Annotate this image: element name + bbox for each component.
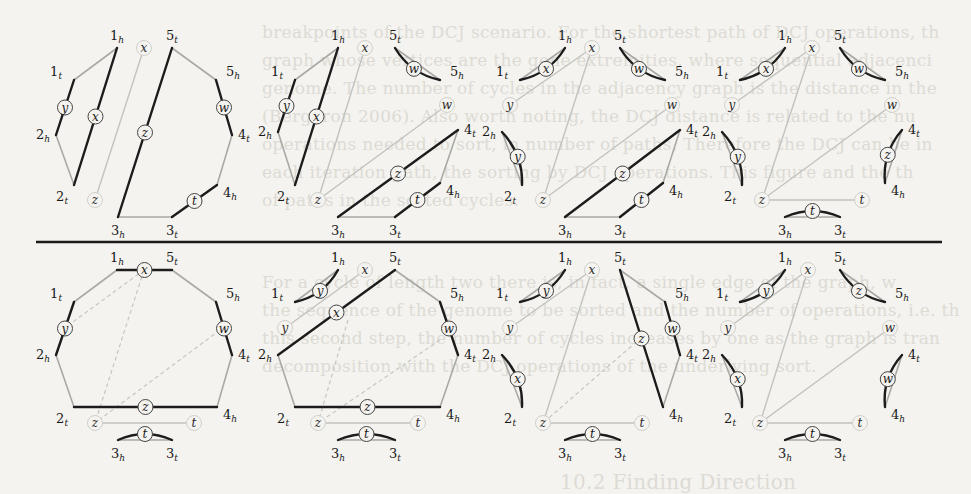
vertex-label-5h: 5h bbox=[450, 286, 464, 303]
aux-node-w: w bbox=[440, 98, 455, 113]
panel-top-1: yxzwtxz1t1h5t5h4t4h3t3h2t2h bbox=[36, 28, 250, 240]
vertex-label-4h: 4h bbox=[446, 183, 460, 200]
svg-text:w: w bbox=[219, 322, 230, 336]
edge-label-x: x bbox=[137, 263, 152, 278]
svg-text:z: z bbox=[141, 126, 149, 140]
svg-text:x: x bbox=[362, 41, 369, 55]
edge-label-y: y bbox=[313, 283, 328, 298]
vertex-label-3t: 3t bbox=[614, 446, 626, 463]
vertex-label-4t: 4t bbox=[686, 347, 698, 364]
vertex-label-1h: 1h bbox=[331, 250, 345, 267]
aux-node-y: y bbox=[725, 98, 740, 113]
vertex-label-2t: 2t bbox=[277, 189, 289, 206]
vertex-label-1h: 1h bbox=[778, 28, 792, 45]
svg-text:z: z bbox=[539, 193, 547, 207]
adjacency-edge-1t-1h bbox=[295, 48, 338, 80]
vertex-label-5h: 5h bbox=[226, 286, 240, 303]
vertex-label-2t: 2t bbox=[504, 189, 516, 206]
vertex-label-1t: 1t bbox=[50, 64, 62, 81]
dashed-edge bbox=[318, 340, 440, 423]
svg-text:w: w bbox=[667, 322, 678, 336]
vertex-label-5t: 5t bbox=[166, 250, 178, 267]
vertex-label-3h: 3h bbox=[331, 446, 345, 463]
svg-text:x: x bbox=[313, 110, 320, 124]
aux-node-z: z bbox=[755, 193, 770, 208]
edge-label-z: z bbox=[851, 283, 866, 298]
edge-label-z: z bbox=[634, 331, 649, 346]
svg-text:y: y bbox=[61, 322, 69, 336]
aux-edge-w-z bbox=[760, 328, 890, 423]
vertex-label-4h: 4h bbox=[446, 407, 460, 424]
svg-text:z: z bbox=[539, 416, 547, 430]
svg-text:y: y bbox=[542, 284, 550, 298]
edge-label-t: t bbox=[585, 427, 600, 442]
adjacency-edge-2h-2t bbox=[56, 355, 74, 407]
vertex-label-3t: 3t bbox=[389, 223, 401, 240]
dashed-edge bbox=[95, 330, 220, 423]
edge-label-z: z bbox=[391, 166, 406, 181]
vertex-label-2h: 2h bbox=[482, 347, 496, 364]
vertex-label-1h: 1h bbox=[110, 250, 124, 267]
svg-text:t: t bbox=[640, 416, 645, 430]
vertex-label-4h: 4h bbox=[891, 183, 905, 200]
svg-text:w: w bbox=[885, 321, 896, 335]
aux-node-z: z bbox=[311, 416, 326, 431]
aux-node-y: y bbox=[503, 321, 518, 336]
vertex-label-1t: 1t bbox=[271, 286, 283, 303]
aux-edge-x-y bbox=[510, 48, 592, 105]
edge-label-t: t bbox=[137, 427, 152, 442]
aux-node-z: z bbox=[88, 193, 103, 208]
svg-text:y: y bbox=[513, 150, 521, 164]
adjacency-edge-4t-4h bbox=[217, 355, 232, 407]
svg-text:x: x bbox=[805, 263, 812, 277]
edge-label-t: t bbox=[187, 194, 202, 209]
aux-node-w: w bbox=[665, 98, 680, 113]
edge-label-z: z bbox=[360, 400, 375, 415]
vertex-label-1h: 1h bbox=[331, 28, 345, 45]
vertex-label-5h: 5h bbox=[675, 64, 689, 81]
svg-text:x: x bbox=[809, 41, 816, 55]
adjacency-edge-2h-2t bbox=[278, 132, 295, 185]
vertex-label-3t: 3t bbox=[389, 446, 401, 463]
vertex-label-2t: 2t bbox=[56, 189, 68, 206]
edge-label-t: t bbox=[359, 427, 374, 442]
vertex-label-4h: 4h bbox=[223, 407, 237, 424]
svg-text:y: y bbox=[733, 150, 741, 164]
svg-text:z: z bbox=[91, 416, 99, 430]
vertex-label-1h: 1h bbox=[778, 250, 792, 267]
panel-bottom-4: yzxwtxywzt1t1h5t5h4t4h3t3h2t2h bbox=[702, 250, 920, 463]
adjacency-edge-2h-2t bbox=[56, 135, 74, 185]
adjacency-edge-5t-5h bbox=[172, 270, 216, 302]
vertex-label-3h: 3h bbox=[111, 223, 125, 240]
edge-label-x: x bbox=[759, 61, 774, 76]
vertex-label-2h: 2h bbox=[36, 127, 50, 144]
vertex-label-4t: 4t bbox=[908, 122, 920, 139]
edge-label-y: y bbox=[759, 283, 774, 298]
svg-text:y: y bbox=[728, 98, 736, 112]
aux-node-x: x bbox=[358, 41, 373, 56]
edge-label-y: y bbox=[58, 100, 73, 115]
vertex-label-5t: 5t bbox=[834, 28, 846, 45]
aux-node-y: y bbox=[503, 98, 518, 113]
aux-node-t: t bbox=[855, 193, 870, 208]
vertex-label-1t: 1t bbox=[496, 286, 508, 303]
svg-text:z: z bbox=[884, 148, 892, 162]
edge-label-y: y bbox=[510, 149, 525, 164]
svg-text:t: t bbox=[364, 427, 369, 441]
edge-label-t: t bbox=[634, 193, 649, 208]
svg-text:w: w bbox=[634, 62, 645, 76]
vertex-label-5h: 5h bbox=[226, 64, 240, 81]
vertex-label-3t: 3t bbox=[614, 223, 626, 240]
adjacency-edge-5t-5h bbox=[172, 48, 216, 80]
vertex-label-1t: 1t bbox=[271, 64, 283, 81]
vertex-label-3h: 3h bbox=[778, 446, 792, 463]
svg-text:t: t bbox=[860, 193, 865, 207]
svg-text:y: y bbox=[762, 284, 770, 298]
vertex-label-4h: 4h bbox=[669, 407, 683, 424]
panel-top-2: yxztwxwz1t1h5t5h4t4h3t3h2t2h bbox=[258, 28, 476, 240]
svg-text:z: z bbox=[314, 193, 322, 207]
svg-text:x: x bbox=[362, 263, 369, 277]
vertex-label-5t: 5t bbox=[834, 250, 846, 267]
edge-label-x: x bbox=[730, 372, 745, 387]
panel-bottom-3: zwyxtxyzt1t1h5t5h4t4h3t3h2t2h bbox=[482, 250, 698, 463]
